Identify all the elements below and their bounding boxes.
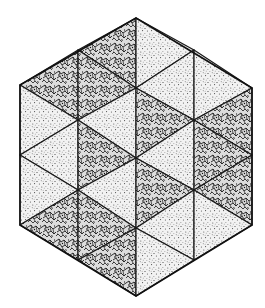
hexagon-triangle-tiling-figure [0, 0, 265, 308]
tiling-svg [0, 0, 265, 308]
triangle-tiles [20, 18, 252, 296]
